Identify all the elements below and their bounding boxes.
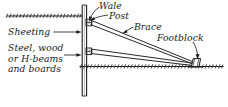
- material-leader: [64, 53, 82, 57]
- lower-wale: [86, 48, 92, 55]
- diagram-canvas: Sheeting Steel, wood or H-beams and boar…: [0, 0, 228, 107]
- upper-ground-line: [6, 14, 82, 18]
- label-material: Steel, wood or H-beams and boards: [8, 43, 64, 75]
- label-post: Post: [109, 11, 129, 22]
- label-footblock: Footblock: [157, 33, 204, 44]
- post-leader: [90, 15, 108, 21]
- brace-leader: [122, 27, 133, 33]
- label-sheeting: Sheeting: [8, 27, 50, 38]
- lower-brace: [92, 49, 197, 66]
- sheeting-leader: [54, 30, 82, 34]
- label-brace: Brace: [134, 22, 162, 33]
- footblock-leader: [193, 42, 200, 59]
